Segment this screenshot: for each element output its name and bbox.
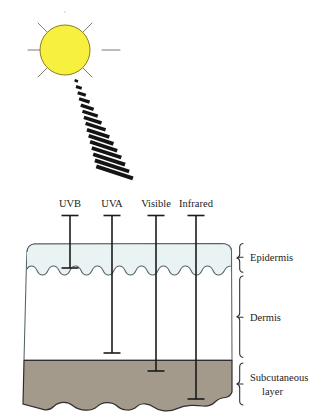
layer-label-subcutaneous: Subcutaneous [250, 372, 308, 383]
sun-disc-icon [40, 25, 90, 75]
radiation-label-uvb: UVB [59, 198, 81, 209]
radiation-label-visible: Visible [141, 198, 171, 209]
sun-group [28, 12, 120, 77]
sun-beam-icon [74, 79, 133, 180]
layer-label-subcutaneous-line2: layer [262, 386, 283, 397]
skin-penetration-diagram: UVB UVA Visible Infrared Epidermis Dermi… [0, 0, 325, 420]
layer-label-dermis: Dermis [250, 312, 281, 323]
radiation-label-uva: UVA [101, 198, 123, 209]
radiation-label-infrared: Infrared [179, 198, 214, 209]
subcutaneous-layer-shape [23, 361, 232, 411]
layer-braces [237, 244, 243, 406]
brace-epidermis [237, 244, 243, 273]
layer-label-epidermis: Epidermis [250, 252, 293, 263]
figure-root: UVB UVA Visible Infrared Epidermis Dermi… [0, 0, 325, 420]
